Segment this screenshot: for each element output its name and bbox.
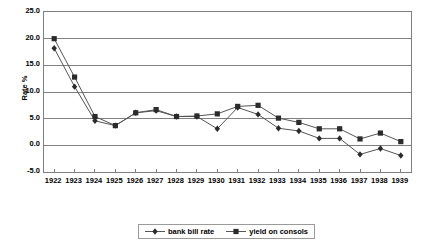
data-point-marker-square bbox=[174, 114, 179, 119]
data-point-marker-square bbox=[337, 126, 342, 131]
x-axis-tick-label: 1927 bbox=[145, 176, 165, 186]
x-axis-tick-label: 1939 bbox=[390, 176, 410, 186]
x-axis-tick-label: 1937 bbox=[349, 176, 369, 186]
x-axis-tick-label: 1930 bbox=[206, 176, 226, 186]
data-point-marker-square bbox=[378, 130, 383, 135]
data-point-marker-square bbox=[296, 120, 301, 125]
data-point-marker-square bbox=[194, 113, 199, 118]
data-point-marker-square bbox=[52, 36, 57, 41]
legend-item[interactable]: yield on consols bbox=[226, 227, 308, 236]
x-axis-tick-label: 1928 bbox=[165, 176, 185, 186]
series-yield-on-consols bbox=[52, 36, 404, 144]
legend-item[interactable]: bank bill rate bbox=[145, 227, 214, 236]
data-point-marker-square bbox=[154, 107, 159, 112]
plot-area bbox=[43, 11, 412, 173]
x-axis-tick-labels: 1922192319241925192619271928192919301931… bbox=[43, 176, 412, 192]
data-point-marker-diamond bbox=[378, 145, 383, 151]
series-line bbox=[54, 48, 401, 155]
y-axis-tick-label: 25.0 bbox=[4, 7, 40, 15]
legend-marker-square-icon bbox=[226, 227, 246, 236]
x-axis-tick-label: 1931 bbox=[227, 176, 247, 186]
legend-item-label: bank bill rate bbox=[168, 227, 214, 236]
legend-square-marker bbox=[234, 229, 239, 234]
legend-marker-diamond-icon bbox=[145, 227, 165, 236]
data-point-marker-square bbox=[215, 111, 220, 116]
data-point-marker-diamond bbox=[296, 128, 301, 134]
data-point-marker-diamond bbox=[337, 135, 342, 141]
y-axis-tick-label: 0.0 bbox=[4, 140, 40, 148]
y-axis-tick-label: 5.0 bbox=[4, 114, 40, 122]
data-point-marker-diamond bbox=[276, 125, 281, 131]
chart-container: Rate % 25.020.015.010.05.00.0-5.0 192219… bbox=[0, 0, 430, 245]
data-point-marker-diamond bbox=[255, 111, 260, 117]
x-axis-tick-label: 1923 bbox=[63, 176, 83, 186]
series-line bbox=[54, 39, 401, 142]
x-axis-tick-label: 1938 bbox=[369, 176, 389, 186]
legend-item-label: yield on consols bbox=[249, 227, 308, 236]
data-point-marker-square bbox=[398, 139, 403, 144]
series-bank-bill-rate bbox=[51, 45, 403, 159]
data-point-marker-diamond bbox=[357, 151, 362, 157]
data-point-marker-diamond bbox=[398, 152, 403, 158]
legend-diamond-marker bbox=[152, 228, 157, 234]
data-point-marker-square bbox=[317, 126, 322, 131]
y-axis-tick-labels: 25.020.015.010.05.00.0-5.0 bbox=[0, 0, 40, 180]
data-point-marker-diamond bbox=[317, 135, 322, 141]
x-axis-tick-label: 1936 bbox=[328, 176, 348, 186]
data-point-marker-square bbox=[276, 116, 281, 121]
x-axis-tick-label: 1924 bbox=[84, 176, 104, 186]
data-point-marker-square bbox=[92, 114, 97, 119]
x-axis-tick-label: 1929 bbox=[186, 176, 206, 186]
y-axis-tick-label: 10.0 bbox=[4, 87, 40, 95]
y-axis-tick-label: 20.0 bbox=[4, 34, 40, 42]
data-point-marker-square bbox=[113, 123, 118, 128]
y-axis-tick-label: 15.0 bbox=[4, 60, 40, 68]
plot-svg bbox=[44, 12, 411, 172]
x-axis-tick-label: 1926 bbox=[125, 176, 145, 186]
x-axis-tick-label: 1925 bbox=[104, 176, 124, 186]
x-axis-tick-label: 1922 bbox=[43, 176, 63, 186]
data-point-marker-square bbox=[235, 104, 240, 109]
x-axis-tick-label: 1932 bbox=[247, 176, 267, 186]
data-point-marker-diamond bbox=[51, 45, 56, 51]
x-axis-tick-label: 1935 bbox=[308, 176, 328, 186]
x-axis-tick-label: 1934 bbox=[288, 176, 308, 186]
data-point-marker-square bbox=[357, 136, 362, 141]
data-point-marker-square bbox=[133, 110, 138, 115]
data-point-marker-square bbox=[72, 74, 77, 79]
y-axis-tick-label: -5.0 bbox=[4, 167, 40, 175]
x-axis-tick-label: 1933 bbox=[267, 176, 287, 186]
chart-legend: bank bill rateyield on consols bbox=[138, 224, 315, 239]
data-point-marker-square bbox=[255, 103, 260, 108]
